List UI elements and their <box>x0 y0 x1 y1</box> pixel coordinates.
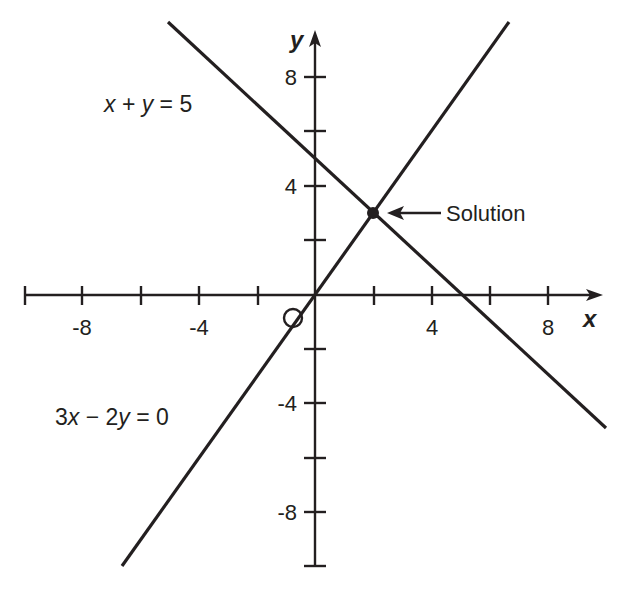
y-tick-label: -8 <box>277 500 297 525</box>
solution-annotation: Solution <box>387 201 526 226</box>
linear-system-graph: -8 -4 4 8 8 4 -4 -8 y x Solution x + y =… <box>0 0 626 592</box>
y-tick-label: 4 <box>285 174 297 199</box>
x-tick-label: -8 <box>72 315 92 340</box>
x-tick-label: 4 <box>426 315 438 340</box>
y-axis-label: y <box>289 26 305 53</box>
line-x-plus-y-equals-5 <box>168 22 606 428</box>
x-tick-labels: -8 -4 4 8 <box>72 315 554 340</box>
x-tick-label: 8 <box>542 315 554 340</box>
y-tick-label: -4 <box>277 391 297 416</box>
x-tick-label: -4 <box>189 315 209 340</box>
x-axis-label: x <box>581 305 598 332</box>
y-axis <box>304 30 326 566</box>
equation-label-line2: 3x − 2y = 0 <box>55 404 169 430</box>
equation-label-line1: x + y = 5 <box>103 91 192 117</box>
y-tick-label: 8 <box>285 65 297 90</box>
solution-label: Solution <box>446 201 526 226</box>
solution-point <box>367 207 379 219</box>
